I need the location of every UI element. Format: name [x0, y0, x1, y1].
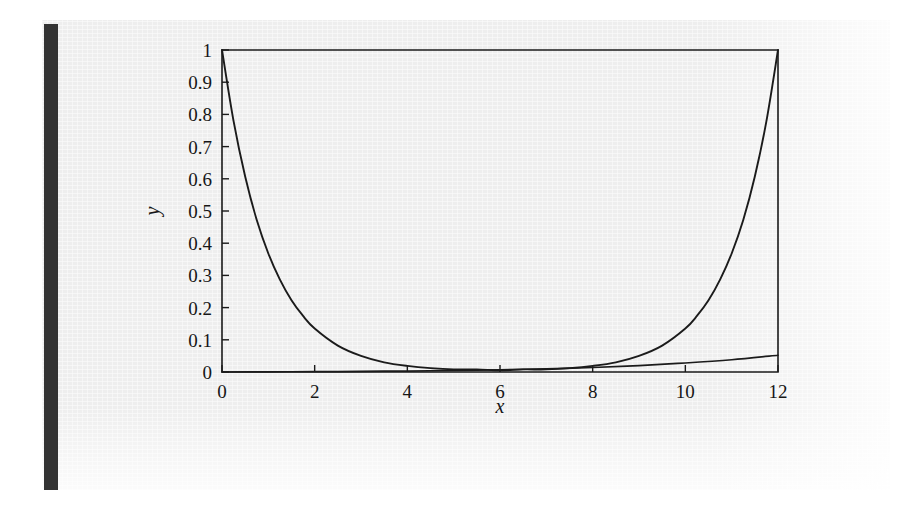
y-tick-label-0: 0 [164, 363, 212, 382]
book-spine-bar [44, 24, 58, 490]
y-tick-label-6: 0.6 [164, 169, 212, 188]
y-tick-label-9: 0.9 [164, 73, 212, 92]
x-tick-label-1: 2 [310, 382, 320, 401]
y-tick-label-1: 0.1 [164, 330, 212, 349]
y-axis-title: y [142, 207, 162, 216]
y-tick-label-3: 0.3 [164, 266, 212, 285]
y-tick-label-2: 0.2 [164, 298, 212, 317]
x-tick-label-0: 0 [217, 382, 227, 401]
y-tick-label-4: 0.4 [164, 234, 212, 253]
y-tick-label-7: 0.7 [164, 137, 212, 156]
x-tick-label-5: 10 [676, 382, 695, 401]
y-tick-label-10: 1 [164, 41, 212, 60]
y-tick-label-8: 0.8 [164, 105, 212, 124]
x-tick-label-6: 12 [769, 382, 788, 401]
figure-root: 00.10.20.30.40.50.60.70.80.91 024681012 … [0, 0, 917, 517]
x-axis-title: x [496, 396, 505, 416]
x-tick-label-2: 4 [403, 382, 413, 401]
y-tick-label-5: 0.5 [164, 202, 212, 221]
x-tick-label-4: 8 [588, 382, 598, 401]
